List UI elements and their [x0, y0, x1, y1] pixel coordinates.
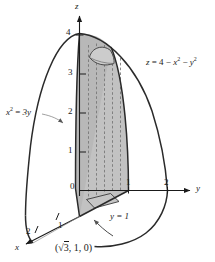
- x-tick-label-2: 2: [26, 227, 31, 236]
- diagram-svg: [0, 0, 215, 262]
- x-axis-construction-line: [33, 217, 80, 244]
- point-remainder: , 1, 0): [69, 242, 92, 253]
- figure-canvas: z y x 4 3 2 1 0 1 2 1 2 z = 4 − x2 − y2 …: [0, 0, 215, 262]
- surface-equation-label: z = 4 − x2 − y2: [146, 58, 197, 67]
- surface-eq-term2-exponent: 2: [194, 56, 197, 62]
- z-tick-label-1: 1: [68, 146, 73, 155]
- surface-eq-lhs: z: [146, 57, 150, 67]
- x-tick-2: [35, 226, 38, 233]
- x-tick-1: [56, 213, 59, 220]
- cylinder-label-leader: [42, 114, 63, 123]
- cylinder-eq-rhs: 3y: [23, 107, 32, 117]
- point-label-leader: [94, 220, 113, 236]
- x-axis-label: x: [15, 243, 19, 252]
- x-axis: [26, 217, 80, 245]
- cylinder-equation-label: x2 = 3y: [6, 108, 31, 117]
- z-axis-label: z: [75, 2, 79, 11]
- y-axis-label: y: [196, 184, 200, 193]
- surface-eq-term1-exponent: 2: [177, 56, 180, 62]
- y-tick-label-1: 1: [126, 178, 131, 187]
- surface-eq-constant: 4: [159, 57, 164, 67]
- corner-point-label: (√3, 1, 0): [55, 243, 92, 253]
- z-tick-label-2: 2: [68, 107, 73, 116]
- surface-eq-equals: =: [152, 57, 157, 67]
- cylinder-eq-exponent: 2: [10, 106, 13, 112]
- plane-equation-label: y = 1: [110, 212, 129, 221]
- surface-eq-minus-2: −: [182, 57, 187, 67]
- x-tick-label-1: 1: [58, 221, 63, 230]
- surface-eq-minus-1: −: [166, 57, 171, 67]
- cylinder-eq-equals: =: [15, 107, 20, 117]
- origin-label: 0: [70, 182, 75, 191]
- y-tick-label-2: 2: [164, 178, 169, 187]
- z-tick-label-4: 4: [66, 28, 71, 37]
- z-tick-label-3: 3: [68, 68, 73, 77]
